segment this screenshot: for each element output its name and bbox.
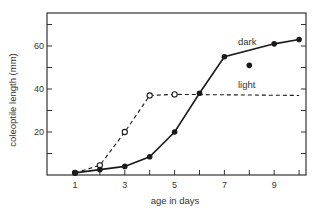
dark-series-marker — [147, 154, 153, 160]
x-axis-title: age in days — [151, 195, 200, 206]
dark-series-marker — [296, 37, 302, 43]
dark-series-marker — [271, 41, 277, 47]
x-tick-label: 3 — [122, 180, 127, 190]
light-series-line — [75, 94, 299, 172]
data-series — [72, 37, 302, 176]
dark-series-marker — [222, 54, 228, 60]
dark-series-marker — [197, 91, 203, 97]
y-axis-ticks: 204060 — [34, 25, 306, 154]
x-tick-label: 7 — [222, 180, 227, 190]
light-series-marker — [172, 92, 177, 97]
x-tick-label: 1 — [72, 180, 77, 190]
light-series-marker — [122, 129, 127, 134]
y-tick-label: 20 — [34, 127, 44, 137]
x-tick-label: 9 — [272, 180, 277, 190]
dark-series-marker — [172, 129, 178, 135]
dark-series-marker — [72, 170, 78, 176]
coleoptile-growth-chart: 204060 13579 age in days coleoptile leng… — [0, 0, 320, 213]
dark-series-marker — [122, 164, 128, 170]
y-tick-label: 60 — [34, 41, 44, 51]
x-axis-ticks: 13579 — [72, 170, 299, 190]
series-label-dark: dark — [238, 36, 257, 47]
y-axis-title: coleoptile length (mm) — [7, 53, 18, 146]
x-tick-label: 5 — [172, 180, 177, 190]
series-label-light: light — [238, 79, 256, 90]
y-tick-label: 40 — [34, 84, 44, 94]
light-series-marker — [147, 93, 152, 98]
dark-series-line — [75, 40, 299, 173]
dark-isolated-marker — [247, 63, 253, 69]
dark-series-marker — [97, 167, 103, 173]
